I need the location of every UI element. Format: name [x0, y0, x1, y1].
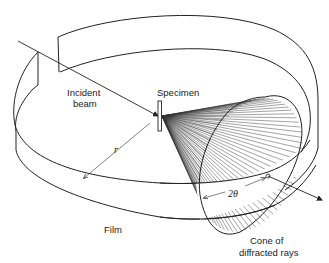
film-cut-edge-left: [33, 52, 38, 89]
specimen-label: Specimen: [157, 87, 199, 98]
incident-beam-label-line2: beam: [73, 98, 97, 109]
diffraction-cone: [160, 98, 316, 231]
cone-label-line1: Cone of: [250, 235, 284, 246]
film-cut-edge-right: [58, 37, 59, 72]
incident-beam-label-line1: Incident: [67, 87, 101, 98]
diffracted-ray: [162, 102, 281, 116]
specimen: [158, 101, 162, 131]
film-label: Film: [104, 224, 122, 235]
diffracted-ray: [162, 100, 278, 116]
film-front-top-edge: [14, 52, 268, 184]
debye-scherrer-diagram: Incident beam Specimen r Film 2θ Cone of…: [0, 0, 329, 263]
two-theta-label: 2θ: [228, 188, 238, 199]
cone-label-line2: diffracted rays: [239, 247, 299, 258]
radius-label: r: [114, 144, 118, 155]
diffracted-ray: [162, 116, 303, 149]
film-band-lower-edge-back: [60, 49, 310, 112]
diffracted-ray: [162, 116, 204, 158]
